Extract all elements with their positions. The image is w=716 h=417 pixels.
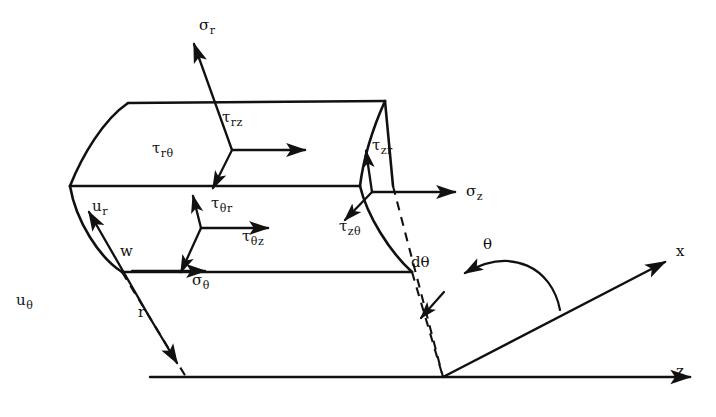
tau-rtheta-arrow: [213, 150, 232, 188]
x-axis-line: [443, 262, 665, 377]
tau-thetar-arrow: [193, 196, 201, 228]
label-sigma-r: σr: [199, 18, 216, 36]
displacement-vectors: [89, 212, 205, 363]
label-sigma-z: σz: [466, 184, 483, 202]
label-tau-rtheta: τrθ: [152, 141, 174, 159]
label-tau-ztheta: τzθ: [339, 219, 361, 237]
right-face-lower-arc: [360, 186, 412, 272]
label-r: r: [138, 305, 145, 320]
stress-element-diagram: σr τrz τrθ τθr τθz σθ τzr τzθ σz ur uθ w…: [0, 0, 716, 417]
r-face-vectors: [194, 44, 305, 188]
left-face-top-arc: [70, 103, 128, 186]
coordinate-axes: [150, 262, 690, 377]
label-theta: θ: [483, 237, 492, 252]
d-theta-angle-arc: [421, 292, 444, 318]
label-tau-zr: τzr: [372, 138, 393, 156]
label-tau-thetaz: τθz: [242, 229, 264, 247]
theta-angle-arc: [465, 261, 560, 310]
label-x-axis: x: [676, 244, 684, 259]
sigma-theta-arrow: [181, 228, 201, 272]
label-w: w: [120, 244, 133, 259]
label-sigma-theta: σθ: [192, 273, 210, 291]
theta-arc-path: [465, 261, 560, 310]
sigma-r-arrow: [194, 44, 232, 150]
label-tau-thetar: τθr: [211, 196, 233, 214]
label-tau-rz: τrz: [222, 110, 243, 128]
label-z-axis: z: [676, 364, 684, 379]
d-theta-arc-path: [421, 292, 444, 318]
tau-ztheta-arrow: [345, 192, 372, 220]
u-theta-arrow: [150, 318, 177, 363]
construction-dashed-lines: [122, 186, 443, 377]
tau-zr-arrow: [366, 151, 372, 192]
label-u-r: ur: [92, 199, 108, 217]
top-back-edge: [128, 101, 385, 103]
radius-dashed-line-right-inner: [393, 186, 443, 377]
label-u-theta: uθ: [16, 293, 33, 311]
label-d-theta: dθ: [411, 255, 430, 270]
